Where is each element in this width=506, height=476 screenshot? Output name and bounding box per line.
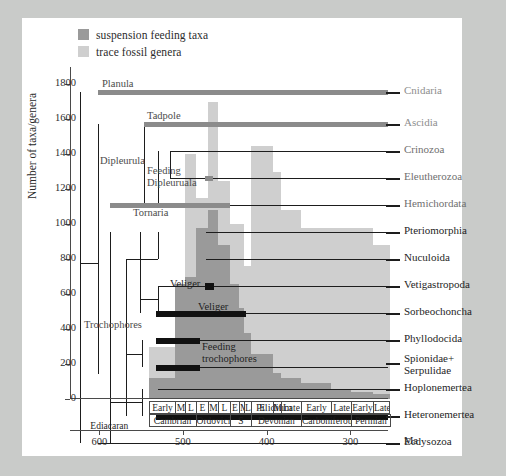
node-nemertea	[142, 389, 143, 416]
taxon-label: Sorbeochoncha	[404, 306, 472, 318]
larval-label-feeding-dipleurula: Feeding Dipleuruala	[147, 165, 197, 188]
x-tick-label: 500	[175, 436, 191, 447]
timescale-cell: Carboniferous	[301, 414, 351, 427]
stem-crinozoa	[170, 151, 194, 152]
timescale-cell: M	[208, 401, 218, 414]
node-bar-veliger-upper	[205, 283, 214, 290]
larval-label-tadpole: Tadpole	[147, 110, 181, 122]
timescale-cell: L	[185, 401, 195, 414]
y-tick-label: 0	[42, 392, 76, 403]
larval-label-dipleurula: Dipleurula	[100, 155, 145, 167]
node-bar-feeding-trochophores-bottom	[156, 365, 200, 371]
y-axis-title: Number of taxa/genera	[26, 69, 38, 199]
node-mollusca	[140, 232, 141, 313]
branch-pteriomorphia	[206, 232, 388, 233]
y-tick-label: 1600	[42, 112, 76, 123]
taxon-label: Hoplonemertea	[404, 382, 472, 394]
x-tick-label: 300	[342, 436, 358, 447]
timescale-cell: Late	[281, 401, 301, 414]
taxon-leader-line	[386, 178, 400, 180]
larval-label-veliger-lower: Veliger	[198, 301, 228, 313]
legend-label-suspension: suspension feeding taxa	[96, 29, 208, 41]
timescale-cell: Early	[149, 401, 176, 414]
timescale-cell: Devonian	[251, 414, 301, 427]
stem-mollusca	[126, 259, 158, 260]
taxon-label: Crinozoa	[404, 144, 444, 156]
timescale-cell: M	[273, 401, 281, 414]
taxon-label: Phyllodocida	[404, 333, 462, 345]
timescale-cell: M	[175, 401, 185, 414]
node-bivalvia	[158, 232, 159, 259]
node-bar-tadpole	[144, 122, 388, 127]
node-lophotrochozoa	[126, 259, 127, 416]
larval-label-feeding-trochophores: Feeding trochophores	[202, 341, 257, 364]
taxon-leader-line	[386, 124, 400, 126]
branch-eleutherozoa	[170, 178, 388, 179]
taxon-leader-line	[386, 286, 400, 288]
x-tick-mark	[350, 431, 351, 435]
x-tick-mark	[99, 431, 100, 435]
branch-crinozoa	[194, 151, 388, 152]
taxon-leader-line	[386, 363, 400, 365]
y-tick-label: 600	[42, 287, 76, 298]
y-tick-label: 1000	[42, 217, 76, 228]
legend-item-trace-fossil: trace fossil genera	[78, 43, 208, 60]
timescale-cell: Cambrian	[149, 414, 196, 427]
taxon-label: Ascidia	[404, 117, 438, 129]
timescale-cell: Late	[331, 401, 351, 414]
timescale-cell: Permian	[351, 414, 390, 427]
timescale-cell: Early	[351, 401, 373, 414]
taxon-leader-line	[386, 340, 400, 342]
stem-annelida	[126, 354, 142, 355]
taxon-leader-line	[386, 205, 400, 207]
y-tick-label: 800	[42, 252, 76, 263]
time-axis-ruler	[70, 430, 388, 431]
legend-swatch-suspension	[78, 29, 89, 40]
timescale-cell: Ordovician	[196, 414, 230, 427]
x-axis-line	[70, 398, 388, 399]
y-tick-label: 200	[42, 357, 76, 368]
branch-nuculoida	[206, 259, 388, 260]
timescale-cell: L	[244, 401, 251, 414]
taxon-leader-line	[386, 151, 400, 153]
timescale-cell: E	[251, 401, 273, 414]
legend-label-trace: trace fossil genera	[96, 46, 182, 58]
taxon-leader-line	[386, 232, 400, 234]
y-tick-label: 400	[42, 322, 76, 333]
y-tick-label: 1200	[42, 182, 76, 193]
timescale-cell: E	[196, 401, 209, 414]
branch-hoplonemertea	[158, 389, 388, 390]
timescale-cell: E	[230, 401, 239, 414]
larval-label-planula: Planula	[102, 78, 134, 90]
node-protostomia	[110, 232, 111, 443]
x-tick-mark	[183, 431, 184, 435]
taxon-label: Pteriomorphia	[404, 225, 467, 237]
figure-panel: suspension feeding taxa trace fossil gen…	[22, 18, 462, 456]
stem-gastropoda-group	[140, 299, 158, 300]
node-gastropoda	[158, 286, 159, 313]
larval-label-tornaria: Tornaria	[133, 207, 168, 219]
taxon-label: Nuculoida	[404, 252, 450, 264]
larval-label-trochophores: Trochophores	[84, 319, 142, 331]
node-bar-tornaria	[110, 203, 230, 208]
cladogram: Planula Tadpole Dipleurula Feeding Diple…	[70, 67, 388, 399]
node-bar-planula	[98, 90, 388, 95]
x-axis-unit-label: Ma	[404, 435, 418, 446]
taxon-label: Hemichordata	[404, 198, 466, 210]
chart-legend: suspension feeding taxa trace fossil gen…	[78, 26, 208, 60]
taxon-label: Eleutherozoa	[404, 171, 462, 183]
y-tick-label: 1400	[42, 147, 76, 158]
legend-item-suspension-feeding: suspension feeding taxa	[78, 26, 208, 43]
taxon-label: Heteronemertea	[404, 409, 474, 421]
taxon-leader-line	[386, 259, 400, 261]
stem-nemertea	[110, 402, 142, 403]
taxon-leader-line	[386, 389, 400, 391]
taxon-leader-line	[386, 313, 400, 315]
y-tick-label: 1800	[42, 77, 76, 88]
taxon-leader-line	[386, 443, 400, 445]
legend-swatch-trace	[78, 46, 89, 57]
timescale-cell: Early	[301, 401, 331, 414]
plot-area: Planula Tadpole Dipleurula Feeding Diple…	[70, 67, 388, 399]
node-annelida	[142, 340, 143, 367]
node-bar-feeding-trochophores-top	[156, 338, 200, 344]
